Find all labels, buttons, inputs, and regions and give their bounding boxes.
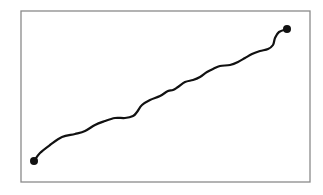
start-point-dot bbox=[30, 157, 38, 165]
wavy-path-line bbox=[34, 29, 287, 161]
diagram-canvas bbox=[0, 0, 323, 195]
frame-border bbox=[21, 11, 310, 182]
end-point-dot bbox=[283, 25, 291, 33]
